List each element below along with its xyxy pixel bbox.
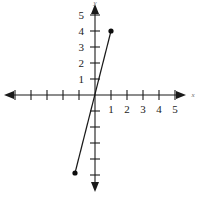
x-tick-label-4: 4 [156, 103, 162, 115]
y-tick-label-4: 4 [79, 25, 85, 37]
y-tick-label-5: 5 [79, 9, 85, 21]
coordinate-plane-figure: 1 2 3 4 5 x 5 [0, 0, 202, 198]
y-tick-label-3: 3 [79, 41, 85, 53]
endpoint-marker-lower [72, 170, 77, 175]
y-axis-group: 5 4 3 2 1 y [79, 0, 101, 192]
x-axis-right-arrow-icon [176, 91, 186, 99]
x-tick-label-1: 1 [108, 103, 114, 115]
x-tick-label-3: 3 [140, 103, 146, 115]
y-tick-label-1: 1 [79, 73, 85, 85]
x-axis-label: x [190, 91, 195, 99]
x-tick-label-2: 2 [124, 103, 130, 115]
x-tick-label-5: 5 [172, 103, 178, 115]
coordinate-plane-svg: 1 2 3 4 5 x 5 [0, 0, 202, 198]
y-axis-down-arrow-icon [91, 182, 99, 192]
y-axis-label: y [92, 0, 97, 7]
x-axis-left-arrow-icon [4, 91, 14, 99]
endpoint-marker-upper [108, 28, 113, 33]
y-tick-label-2: 2 [79, 57, 85, 69]
